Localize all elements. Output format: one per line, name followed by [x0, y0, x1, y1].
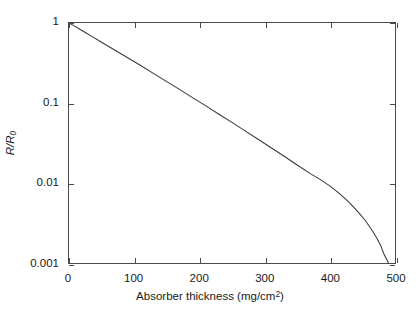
x-tick-mark-bottom: [135, 258, 136, 263]
x-tick-mark-top: [331, 23, 332, 28]
y-tick-mark-right: [390, 23, 395, 24]
x-tick-mark-bottom: [200, 258, 201, 263]
x-tick-mark-top: [69, 23, 70, 28]
y-tick-mark-left: [69, 104, 74, 105]
x-tick-mark-top: [266, 23, 267, 28]
x-tick-mark-top: [397, 23, 398, 28]
chart-figure: 10.10.010.0010100200300400500 Absorber t…: [0, 0, 420, 316]
data-series-line: [69, 23, 388, 263]
x-tick-label: 500: [356, 273, 420, 285]
y-tick-mark-left: [69, 184, 74, 185]
x-tick-mark-bottom: [397, 258, 398, 263]
x-tick-mark-top: [200, 23, 201, 28]
y-axis-title-text: R/R: [4, 135, 16, 155]
y-tick-mark-right: [390, 184, 395, 185]
y-axis-title-subscript: 0: [9, 131, 18, 136]
x-tick-mark-bottom: [266, 258, 267, 263]
x-axis-title: Absorber thickness (mg/cm2): [0, 290, 420, 302]
data-line-svg: [69, 23, 395, 263]
y-tick-label: 0.01: [0, 177, 59, 189]
x-axis-title-text: Absorber thickness (mg/cm: [136, 290, 275, 302]
y-tick-mark-right: [390, 104, 395, 105]
y-tick-mark-right: [390, 265, 395, 266]
x-tick-mark-bottom: [331, 258, 332, 263]
y-tick-mark-left: [69, 265, 74, 266]
y-tick-label: 1: [0, 16, 59, 28]
x-axis-title-suffix: ): [280, 290, 284, 302]
y-tick-label: 0.1: [0, 97, 59, 109]
x-tick-mark-top: [135, 23, 136, 28]
x-tick-mark-bottom: [69, 258, 70, 263]
y-tick-label: 0.001: [0, 258, 59, 270]
plot-area: [68, 22, 396, 264]
y-axis-title: R/R0: [4, 131, 18, 155]
